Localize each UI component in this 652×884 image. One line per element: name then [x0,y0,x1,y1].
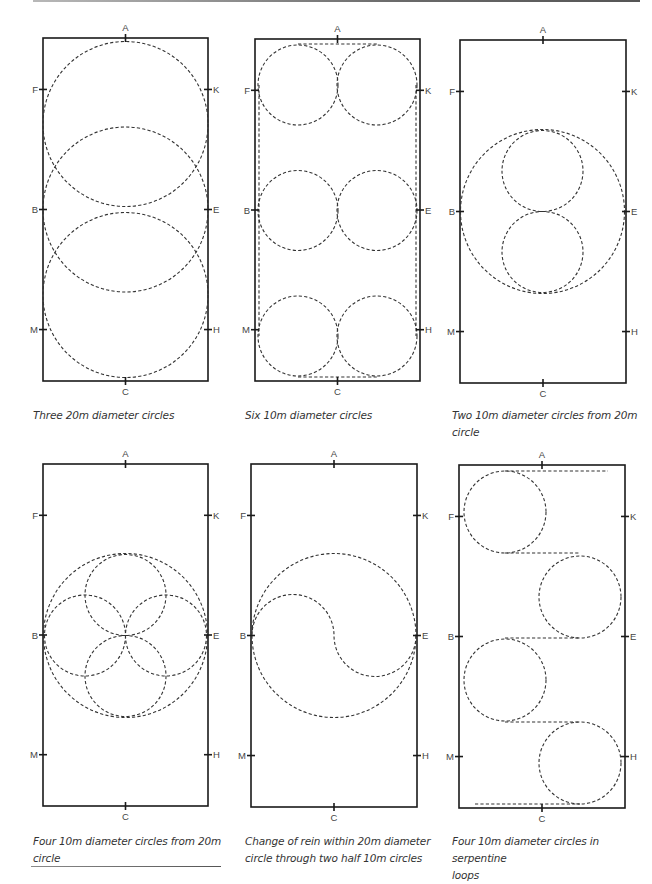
marker-label-E: E [425,205,431,216]
caption-line: circle [33,850,221,867]
top-rule [33,0,640,2]
track-circle [45,595,126,676]
marker-label-E: E [422,630,428,641]
arena-border [251,464,417,807]
caption-change-of-rein-20m: Change of rein within 20m diametercircle… [245,833,430,867]
arena-svg: ACFKBEMH [445,451,639,822]
track-circle [252,554,416,718]
caption-line: circle through two half 10m circles [245,850,430,867]
marker-label-H: H [425,324,432,335]
marker-label-E: E [213,204,219,215]
marker-label-E: E [630,631,636,642]
marker-label-M: M [30,324,38,335]
track-circle [539,722,621,804]
marker-label-B: B [244,205,250,216]
track-circle [43,213,208,378]
arena-svg: ACFKBEMH [237,450,431,821]
marker-label-C: C [122,811,129,822]
marker-label-K: K [425,85,432,96]
arena-border [459,465,625,808]
marker-label-H: H [630,751,637,762]
marker-label-H: H [631,326,638,337]
arena-svg: ACFKBEMH [29,24,222,395]
marker-label-E: E [631,206,637,217]
caption-line: Change of rein within 20m diameter [245,833,430,850]
arena-svg: ACFKBEMH [241,25,434,395]
track-circle [258,45,338,125]
marker-label-B: B [449,206,455,217]
marker-label-F: F [244,85,250,96]
track-circle [258,171,338,251]
marker-label-K: K [630,511,637,522]
marker-label-C: C [331,812,338,823]
marker-label-B: B [32,204,38,215]
marker-label-A: A [540,24,547,35]
arena-two-10m-from-20m: ACFKBEMH [446,26,640,397]
track-circle [464,639,546,721]
caption-line: Three 20m diameter circles [33,407,174,424]
caption-six-10m-circles: Six 10m diameter circles [245,407,372,424]
marker-label-F: F [32,84,38,95]
marker-label-K: K [422,510,429,521]
track-circle [258,296,338,376]
arena-change-of-rein-20m: ACFKBEMH [237,450,431,821]
marker-label-H: H [422,750,429,761]
marker-label-A: A [122,22,129,33]
track-circle [126,595,207,676]
track-circle [539,556,621,638]
marker-label-A: A [122,448,129,459]
marker-label-F: F [449,86,455,97]
track-circle [464,471,546,553]
arena-svg: ACFKBEMH [29,450,222,820]
marker-label-H: H [213,324,220,335]
marker-label-K: K [213,510,220,521]
marker-label-F: F [240,510,246,521]
marker-label-M: M [242,324,250,335]
caption-line: Four 10m diameter circles from 20m [33,833,221,850]
caption-line: Six 10m diameter circles [245,407,372,424]
caption-line: loops [452,867,652,884]
marker-label-A: A [334,23,341,34]
footnote-rule [31,866,221,867]
marker-label-B: B [448,631,454,642]
marker-label-F: F [448,511,454,522]
arena-six-10m-circles: ACFKBEMH [241,25,434,395]
marker-label-C: C [122,386,129,397]
track-circle [337,45,417,125]
track-circle [502,212,583,293]
arena-three-20m-circles: ACFKBEMH [29,24,222,395]
arena-border [43,38,208,381]
caption-serpentine-loops: Four 10m diameter circles in serpentinel… [452,833,652,884]
marker-label-E: E [213,630,219,641]
caption-line: Four 10m diameter circles in serpentine [452,833,652,867]
marker-label-C: C [539,813,546,824]
marker-label-C: C [334,386,341,397]
marker-label-B: B [240,630,246,641]
marker-label-M: M [447,326,455,337]
marker-label-M: M [30,749,38,760]
track-circle [43,127,208,292]
caption-line: Two 10m diameter circles from 20m circle [452,407,652,441]
track-circle [43,42,208,207]
marker-label-F: F [32,510,38,521]
marker-label-C: C [540,388,547,399]
marker-label-M: M [238,750,246,761]
marker-label-A: A [539,449,546,460]
caption-four-10m-from-20m: Four 10m diameter circles from 20mcircle [33,833,221,867]
marker-label-A: A [331,448,338,459]
track-circle [337,296,417,376]
track-circle [502,131,583,212]
track-circle [337,171,417,251]
caption-three-20m-circles: Three 20m diameter circles [33,407,174,424]
marker-label-B: B [32,630,38,641]
marker-label-M: M [446,751,454,762]
arena-four-10m-from-20m: ACFKBEMH [29,450,222,820]
marker-label-K: K [631,86,638,97]
arena-svg: ACFKBEMH [446,26,640,397]
marker-label-K: K [213,84,220,95]
track-circle [85,636,166,717]
track-path [252,595,416,677]
arena-serpentine-loops: ACFKBEMH [445,451,639,822]
marker-label-H: H [213,749,220,760]
caption-two-10m-from-20m: Two 10m diameter circles from 20m circle [452,407,652,441]
